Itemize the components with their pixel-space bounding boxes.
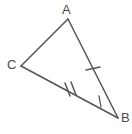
vertex-label-c: C [7,58,16,71]
triangle-side-ac [21,19,68,66]
vertex-label-a: A [62,3,71,16]
triangle-diagram-canvas [0,0,132,134]
angle-arc-vertex-b [99,96,101,107]
triangle-side-cb [21,66,118,118]
geometry-figure: A C B [0,0,132,134]
vertex-label-b: B [121,111,130,124]
